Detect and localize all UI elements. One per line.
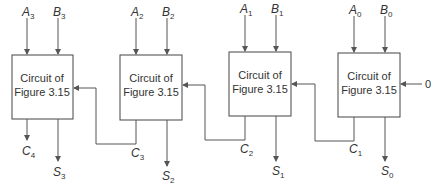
carry-in-label: 0 (425, 78, 431, 90)
ripple-carry-adder-diagram: Circuit of Figure 3.15 A3 B3 C4 S3 Circu… (0, 0, 437, 190)
block-2-label-line2: Figure 3.15 (123, 86, 179, 98)
label-a1: A1 (239, 2, 253, 18)
stage-3: Circuit of Figure 3.15 A3 B3 C4 S3 (12, 5, 73, 181)
label-b0: B0 (380, 3, 393, 19)
stage-0: Circuit of Figure 3.15 0 A0 B0 C1 S0 (292, 3, 431, 180)
label-b3: B3 (53, 5, 66, 21)
block-1-label-line2: Figure 3.15 (232, 83, 288, 95)
label-s2: S2 (162, 169, 175, 185)
stage-1: Circuit of Figure 3.15 A1 B1 C2 S1 (183, 2, 291, 180)
label-s1: S1 (272, 164, 285, 180)
label-b1: B1 (271, 2, 284, 18)
label-s0: S0 (381, 164, 394, 180)
block-1-label-line1: Circuit of (238, 69, 282, 81)
block-0-label-line1: Circuit of (347, 70, 391, 82)
label-a3: A3 (21, 5, 35, 21)
label-a2: A2 (130, 5, 144, 21)
label-c1: C1 (349, 142, 363, 158)
label-s3: S3 (53, 165, 66, 181)
label-a0: A0 (348, 3, 362, 19)
block-2-label-line1: Circuit of (129, 72, 173, 84)
label-c4: C4 (22, 144, 36, 160)
label-b2: B2 (162, 5, 175, 21)
label-c2: C2 (240, 142, 254, 158)
label-c3: C3 (131, 146, 145, 162)
block-3-label-line2: Figure 3.15 (14, 86, 70, 98)
stage-2: Circuit of Figure 3.15 A2 B2 C3 S2 (74, 5, 182, 185)
block-3-label-line1: Circuit of (20, 72, 64, 84)
block-0-label-line2: Figure 3.15 (341, 84, 397, 96)
